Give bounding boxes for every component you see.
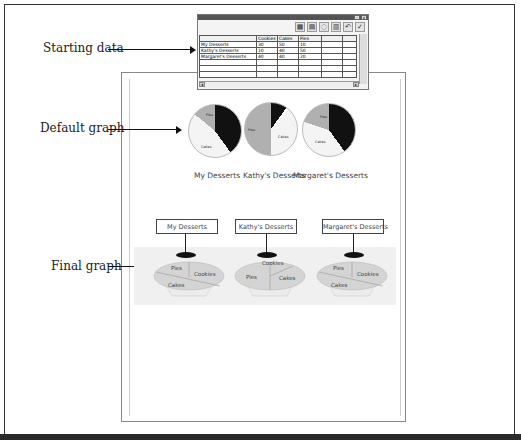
close-icon[interactable]: x	[361, 15, 367, 20]
bottom-rule	[0, 434, 521, 440]
window-titlebar[interactable]	[198, 15, 368, 20]
undo-icon[interactable]: ↶	[343, 22, 353, 32]
vertical-scrollbar[interactable]	[359, 34, 367, 84]
datasheet-toolbar: ▦ ▤ ◌ ▥ ↶ ✓	[295, 22, 365, 32]
leader-line	[353, 234, 354, 254]
bowl-pie-my-desserts	[152, 258, 226, 298]
default-pie-margarets-desserts	[302, 103, 356, 157]
import-file-icon[interactable]: ▤	[307, 22, 317, 32]
chart-type-icon[interactable]: ◌	[319, 22, 329, 32]
pie-label: Pies	[248, 128, 255, 132]
pie-label: Cakes	[201, 145, 211, 149]
label-box-my-desserts: My Desserts	[156, 219, 218, 234]
label-box-kathys-desserts: Kathy's Desserts	[235, 219, 297, 234]
bowl-pie-margarets-desserts	[315, 258, 389, 298]
bowl-label: Cookies	[262, 260, 284, 266]
scroll-right-icon[interactable]: ▸	[353, 82, 359, 87]
pie-title: My Desserts	[194, 171, 240, 180]
bowl-label: Cakes	[168, 282, 184, 288]
datasheet-window[interactable]: - x ▦ ▤ ◌ ▥ ↶ ✓ Cookies Cakes Pies My De…	[197, 14, 369, 90]
callout-default-graph: Default graph	[40, 121, 125, 135]
pie-title: Margaret's Desserts	[293, 171, 368, 180]
minimize-icon[interactable]: -	[354, 15, 360, 20]
bowl-label: Pies	[246, 274, 257, 280]
bowl-label: Cookies	[357, 271, 379, 277]
arrow-default-graph	[108, 129, 180, 130]
bowl-label: Cookies	[194, 271, 216, 277]
bowl-label: Pies	[333, 265, 344, 271]
pie-label: Pies	[320, 115, 327, 119]
scroll-left-icon[interactable]: ◂	[199, 82, 205, 87]
pie-label: Cakes	[315, 140, 325, 144]
arrow-starting-data	[108, 49, 194, 50]
default-pie-my-desserts	[188, 104, 242, 158]
label-box-margarets-desserts: Margaret's Desserts	[322, 219, 384, 234]
datasheet-grid[interactable]: Cookies Cakes Pies My Desserts 30 50 10 …	[199, 35, 357, 78]
view-datasheet-icon[interactable]: ▦	[295, 22, 305, 32]
bowl-label: Cakes	[279, 275, 295, 281]
pie-label: Cakes	[278, 135, 288, 139]
apply-checkmark-icon[interactable]: ✓	[355, 22, 365, 32]
table-row	[200, 72, 357, 78]
callout-starting-data: Starting data	[43, 41, 124, 55]
by-column-icon[interactable]: ▥	[331, 22, 341, 32]
bowl-label: Pies	[171, 265, 182, 271]
leader-line	[266, 234, 267, 254]
leader-line	[185, 234, 186, 254]
bowl-label: Cakes	[331, 282, 347, 288]
pie-label: Pies	[206, 113, 213, 117]
column-header[interactable]: Cookies	[257, 36, 278, 42]
horizontal-scrollbar[interactable]: ◂ ▸	[199, 81, 359, 88]
